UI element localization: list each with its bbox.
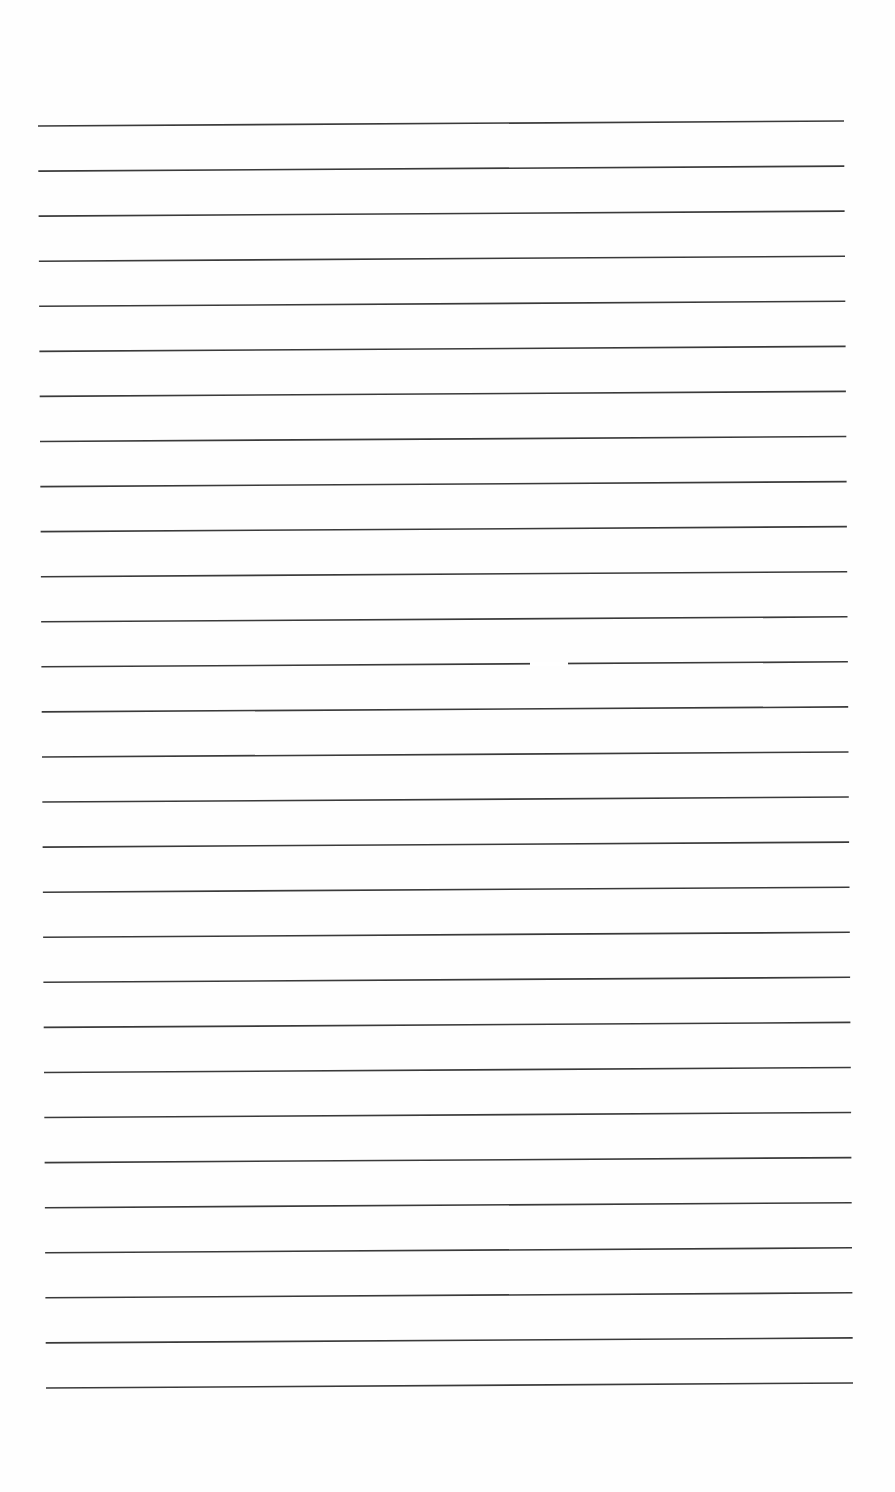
ruled-line: [43, 842, 850, 847]
ruled-line: [45, 1203, 852, 1208]
ruled-line: [39, 301, 845, 306]
ruled-line: [39, 211, 845, 216]
ruled-line: [46, 1338, 853, 1343]
ruled-line: [43, 977, 850, 982]
ruled-line: [41, 617, 847, 622]
lined-paper-page: [0, 0, 895, 1492]
ruled-line: [43, 887, 850, 892]
ruled-line: [39, 256, 845, 261]
ruled-line: [45, 1293, 852, 1298]
ruled-line: [41, 572, 847, 577]
ruled-line: [40, 391, 846, 396]
ruled-line: [44, 1022, 851, 1027]
ruled-line: [42, 797, 849, 802]
ruled-line: [41, 662, 848, 667]
ruled-line: [43, 932, 850, 937]
ruled-line: [45, 1248, 852, 1253]
ruled-line: [38, 166, 844, 171]
ruled-line: [39, 346, 845, 351]
ruled-line: [45, 1158, 852, 1163]
ruled-line: [44, 1068, 851, 1073]
ruled-line: [40, 482, 846, 487]
ruled-line: [42, 752, 849, 757]
ruled-line: [42, 707, 849, 712]
ruled-line: [40, 437, 846, 442]
ruled-lines: [0, 0, 895, 1492]
ruled-line: [41, 527, 847, 532]
ruled-line: [44, 1113, 851, 1118]
ruled-line: [46, 1383, 853, 1388]
ruled-line: [38, 121, 844, 126]
